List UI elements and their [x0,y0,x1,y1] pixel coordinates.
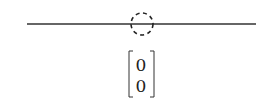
matrix-entry-2: 0 [127,76,155,96]
zero-vector: 0 0 [127,50,155,98]
matrix-entry-1: 0 [127,55,155,75]
